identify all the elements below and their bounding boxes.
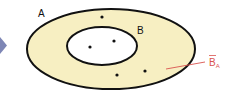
- point-a-only: [143, 69, 146, 72]
- point-a-only: [100, 15, 103, 18]
- arrow-right-icon: [0, 37, 7, 54]
- point-in-b: [88, 45, 91, 48]
- set-b-ellipse: [67, 27, 137, 65]
- venn-diagram: A B BA: [0, 0, 233, 91]
- point-in-b: [112, 39, 115, 42]
- complement-subscript: A: [216, 63, 220, 69]
- label-complement: BA: [209, 57, 220, 69]
- label-set-a: A: [38, 8, 45, 19]
- label-set-b: B: [137, 25, 144, 36]
- point-a-only: [115, 73, 118, 76]
